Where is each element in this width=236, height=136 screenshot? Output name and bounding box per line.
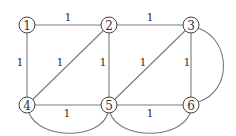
node-1: 1 — [19, 17, 35, 33]
node-3: 3 — [183, 17, 199, 33]
edges — [27, 25, 224, 133]
node-4: 4 — [19, 97, 35, 113]
weighted-graph-diagram: 1 1 1 1 1 1 1 1 1 1 2 3 4 5 — [0, 0, 236, 136]
edge-label-1-4: 1 — [17, 56, 24, 69]
node-4-label: 4 — [23, 99, 31, 113]
node-5: 5 — [101, 97, 117, 113]
edge-3-6-curved — [198, 28, 224, 102]
edge-label-3-6: 1 — [184, 56, 191, 69]
edge-label-5-6: 1 — [147, 107, 154, 120]
node-1-label: 1 — [23, 19, 31, 33]
edge-2-4 — [27, 25, 109, 105]
node-3-label: 3 — [187, 19, 195, 33]
node-2: 2 — [101, 17, 117, 33]
edge-label-3-5: 1 — [140, 56, 147, 69]
node-2-label: 2 — [105, 19, 113, 33]
edge-3-5 — [109, 25, 191, 105]
node-6: 6 — [183, 97, 199, 113]
edge-label-2-5: 1 — [100, 56, 107, 69]
edge-label-4-5: 1 — [64, 107, 71, 120]
edge-label-2-3: 1 — [147, 11, 154, 24]
edge-label-2-4: 1 — [57, 56, 64, 69]
edge-label-1-2: 1 — [65, 11, 72, 24]
node-6-label: 6 — [187, 99, 195, 113]
node-5-label: 5 — [105, 99, 113, 113]
